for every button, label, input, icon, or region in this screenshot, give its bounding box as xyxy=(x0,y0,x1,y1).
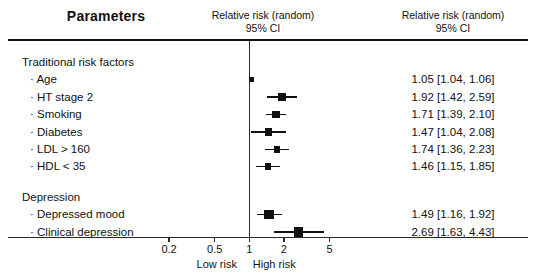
row-estimate-value: 1.05 [1.04, 1.06] xyxy=(378,73,528,86)
column-header-parameters: Parameters xyxy=(8,8,204,25)
column-header-estimates: Relative risk (random) 95% CI xyxy=(378,9,528,34)
point-estimate-marker xyxy=(249,77,254,82)
point-estimate-marker xyxy=(274,146,281,153)
header-divider-rule xyxy=(8,39,528,41)
point-estimate-marker xyxy=(278,93,286,101)
row-label: · HT stage 2 xyxy=(30,91,93,104)
row-estimate-value: 1.47 [1.04, 2.08] xyxy=(378,126,528,139)
column-header-estimates-line1: Relative risk (random) xyxy=(378,9,528,22)
point-estimate-marker xyxy=(265,163,272,170)
column-header-estimates-line2: 95% CI xyxy=(378,22,528,35)
x-axis-tick xyxy=(168,237,169,242)
x-axis-tick xyxy=(283,237,284,242)
row-estimate-value: 1.49 [1.16, 1.92] xyxy=(378,208,528,221)
reference-line-at-1 xyxy=(249,41,250,237)
x-axis-tick-label: 5 xyxy=(310,243,350,256)
forest-plot: Parameters Relative risk (random) 95% CI… xyxy=(0,0,534,280)
column-header-plot: Relative risk (random) 95% CI xyxy=(193,9,333,34)
row-label: · Depressed mood xyxy=(30,208,125,221)
row-estimate-value: 1.74 [1.36, 2.23] xyxy=(378,143,528,156)
row-label: · HDL < 35 xyxy=(30,160,86,173)
row-estimate-value: 1.46 [1.15, 1.85] xyxy=(378,160,528,173)
row-estimate-value: 1.71 [1.39, 2.10] xyxy=(378,108,528,121)
row-label: · Smoking xyxy=(30,108,82,121)
column-header-plot-line1: Relative risk (random) xyxy=(193,9,333,22)
row-label: · Diabetes xyxy=(30,126,82,139)
x-axis-tick-label: 2 xyxy=(264,243,304,256)
point-estimate-marker xyxy=(264,210,274,220)
column-header-plot-line2: 95% CI xyxy=(193,22,333,35)
x-axis-tick xyxy=(249,237,250,242)
group-label: Traditional risk factors xyxy=(22,56,134,69)
point-estimate-marker xyxy=(265,128,273,136)
point-estimate-marker xyxy=(272,111,280,119)
point-estimate-marker xyxy=(294,227,304,237)
x-axis-tick xyxy=(329,237,330,242)
row-label: · Clinical depression xyxy=(30,226,134,239)
row-label: · Age xyxy=(30,73,57,86)
row-estimate-value: 2.69 [1.63, 4.43] xyxy=(378,226,528,239)
group-label: Depression xyxy=(22,191,80,204)
x-axis-tick xyxy=(214,237,215,242)
high-risk-annotation: High risk xyxy=(239,258,309,271)
row-estimate-value: 1.92 [1.42, 2.59] xyxy=(378,91,528,104)
x-axis-tick-label: 0.2 xyxy=(149,243,189,256)
row-label: · LDL > 160 xyxy=(30,143,90,156)
